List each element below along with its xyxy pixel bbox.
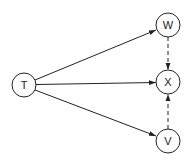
node-t-label: T (21, 79, 28, 91)
edge-t-to-w (35, 30, 156, 80)
node-x-label: X (164, 76, 172, 88)
node-x: X (156, 70, 180, 94)
node-v-label: V (164, 135, 172, 147)
causal-diagram: T W X V (0, 0, 193, 162)
edge-t-to-v (35, 90, 156, 136)
node-w-label: W (163, 19, 174, 31)
node-v: V (156, 129, 180, 153)
edge-t-to-x (36, 83, 156, 85)
node-t: T (12, 73, 36, 97)
node-w: W (156, 13, 180, 37)
